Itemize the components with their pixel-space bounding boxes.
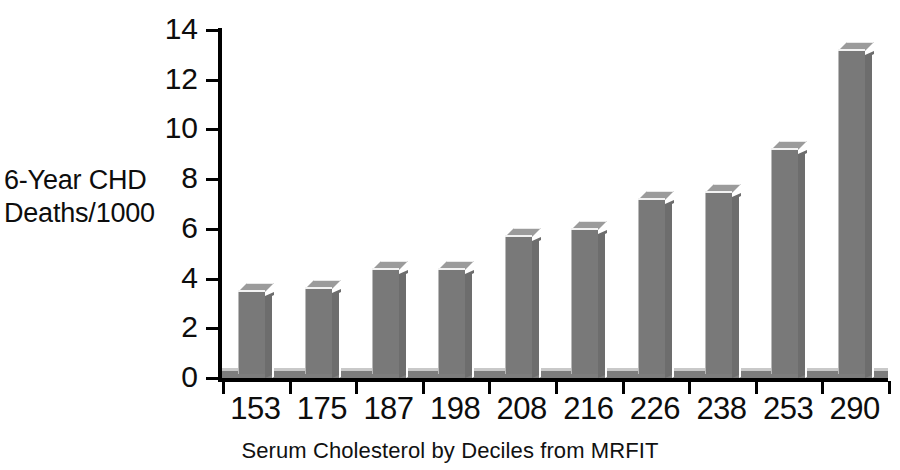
bar-top-highlight xyxy=(238,290,265,292)
y-tick-label: 14 xyxy=(78,14,198,44)
bar-front-face xyxy=(638,200,665,374)
bar-top-highlight xyxy=(305,287,332,289)
bar xyxy=(771,150,798,374)
bar-top-highlight xyxy=(838,49,865,51)
y-tick-mark xyxy=(206,79,219,82)
y-tick-mark xyxy=(206,29,219,32)
bar-side-highlight xyxy=(739,196,741,378)
bar-side-highlight xyxy=(339,293,341,378)
bar xyxy=(505,237,532,374)
bar xyxy=(305,289,332,374)
bar-front-face xyxy=(305,289,332,374)
bar-side-highlight xyxy=(672,203,674,378)
bar xyxy=(705,193,732,374)
y-tick-mark xyxy=(206,327,219,330)
y-tick-mark xyxy=(206,128,219,131)
bar-front-face xyxy=(838,51,865,374)
bar-top-highlight xyxy=(705,191,732,193)
bar xyxy=(638,200,665,374)
bar-side-highlight xyxy=(805,153,807,378)
bar-side-highlight xyxy=(472,273,474,378)
bar-top-highlight xyxy=(771,148,798,150)
chart-figure: 6-Year CHD Deaths/1000 02468101214 15317… xyxy=(0,0,900,470)
bar-front-face xyxy=(372,270,399,374)
bar-top-highlight xyxy=(638,198,665,200)
y-tick-label: 12 xyxy=(78,64,198,94)
y-tick-mark xyxy=(206,228,219,231)
bar-side-highlight xyxy=(605,233,607,378)
x-axis-title: Serum Cholesterol by Deciles from MRFIT xyxy=(0,438,900,464)
bar xyxy=(438,270,465,374)
bar-front-face xyxy=(705,193,732,374)
y-tick-mark xyxy=(206,178,219,181)
bar-side-highlight xyxy=(539,240,541,378)
x-axis-line xyxy=(218,378,888,382)
bar-side-highlight xyxy=(406,273,408,378)
bar-top-highlight xyxy=(571,228,598,230)
bar-top-highlight xyxy=(505,235,532,237)
bar-side-highlight xyxy=(872,54,874,378)
y-tick-label: 4 xyxy=(78,263,198,293)
x-tick-label: 290 xyxy=(815,392,895,426)
y-tick-mark xyxy=(206,377,219,380)
bar-front-face xyxy=(438,270,465,374)
y-tick-label: 0 xyxy=(78,362,198,392)
plot-area: 02468101214 1531751871982082162262382532… xyxy=(0,0,900,470)
bar-top-highlight xyxy=(372,268,399,270)
bar xyxy=(238,292,265,374)
bar xyxy=(571,230,598,374)
y-tick-mark xyxy=(206,278,219,281)
y-tick-label: 8 xyxy=(78,163,198,193)
bar xyxy=(372,270,399,374)
bar-front-face xyxy=(505,237,532,374)
bar xyxy=(838,51,865,374)
bar-front-face xyxy=(238,292,265,374)
y-tick-label: 2 xyxy=(78,312,198,342)
x-tick-mark xyxy=(888,381,891,394)
bar-top-highlight xyxy=(438,268,465,270)
bar-front-face xyxy=(571,230,598,374)
y-tick-label: 10 xyxy=(78,113,198,143)
y-tick-label: 6 xyxy=(78,213,198,243)
bar-side-highlight xyxy=(272,295,274,378)
bar-front-face xyxy=(771,150,798,374)
